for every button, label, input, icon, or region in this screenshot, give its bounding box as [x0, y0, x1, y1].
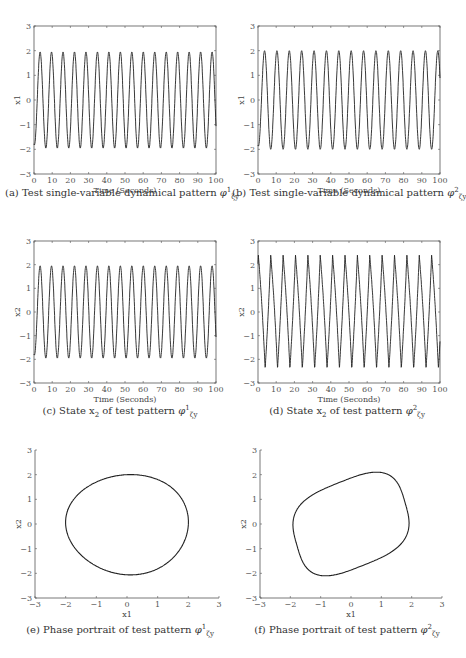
y-tick-label: 0 [252, 520, 257, 529]
y-axis-label: x2 [239, 519, 248, 529]
caption-symbol: φ [421, 624, 428, 635]
x-tick-label: −2 [284, 600, 296, 609]
x-axis-label: x1 [346, 610, 356, 619]
caption-f: (f) Phase portrait of test pattern φ2ζy [232, 623, 462, 638]
y-tick-label: 2 [252, 471, 257, 480]
x-tick-label: 0 [348, 600, 353, 609]
y-tick-label: −1 [245, 545, 257, 554]
x-tick-label: 3 [439, 600, 444, 609]
x-tick-label: −1 [315, 600, 327, 609]
data-line [293, 472, 409, 576]
y-tick-label: −2 [245, 569, 257, 578]
caption-text: (f) Phase portrait of test pattern [254, 624, 420, 635]
y-tick-label: −3 [245, 594, 257, 603]
y-tick-label: 1 [252, 495, 257, 504]
y-tick-label: 3 [252, 446, 257, 455]
x-tick-label: 1 [379, 600, 384, 609]
x-tick-label: 2 [409, 600, 414, 609]
caption-sub: ζy [432, 630, 440, 638]
